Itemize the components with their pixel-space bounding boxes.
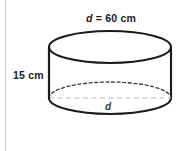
cylinder-figure: d = 60 cm 15 cm d xyxy=(0,0,184,151)
diameter-equals-top: = xyxy=(93,12,106,24)
cylinder-bottom-hidden-arc xyxy=(49,82,171,98)
cylinder-top-ellipse xyxy=(49,31,171,63)
diameter-bottom-label: d xyxy=(105,102,111,112)
diameter-variable-top: d xyxy=(86,12,93,24)
height-label: 15 cm xyxy=(13,70,44,81)
diameter-top-label: d = 60 cm xyxy=(86,13,136,24)
diameter-value-top: 60 cm xyxy=(105,12,136,24)
